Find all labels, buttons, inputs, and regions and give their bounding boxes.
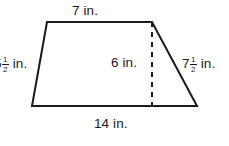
trapezoid-figure: 7 in. 5 1 2 in. 6 in. 7 1 2 in. 14 in. (0, 0, 229, 146)
label-left-leg-numerator: 1 (2, 56, 9, 65)
label-right-leg: 7 1 2 in. (182, 55, 215, 73)
label-top-side: 7 in. (72, 4, 98, 18)
label-right-leg-unit: in. (201, 57, 216, 71)
label-right-leg-numerator: 1 (190, 56, 197, 65)
label-right-leg-mixed-number: 7 1 2 in. (182, 55, 215, 73)
label-right-leg-whole: 7 (182, 57, 190, 71)
label-left-leg: 5 1 2 in. (0, 55, 27, 73)
label-top-text: 7 in. (72, 3, 98, 18)
label-bottom-text: 14 in. (94, 116, 128, 131)
label-height-text: 6 in. (111, 55, 137, 70)
label-height: 6 in. (111, 56, 137, 70)
label-bottom-side: 14 in. (94, 117, 128, 131)
label-left-leg-unit: in. (13, 57, 28, 71)
label-left-leg-fraction: 1 2 (2, 56, 9, 74)
label-left-leg-mixed-number: 5 1 2 in. (0, 55, 27, 73)
label-right-leg-denominator: 2 (190, 65, 197, 74)
label-right-leg-fraction: 1 2 (190, 56, 197, 74)
label-left-leg-denominator: 2 (2, 65, 9, 74)
